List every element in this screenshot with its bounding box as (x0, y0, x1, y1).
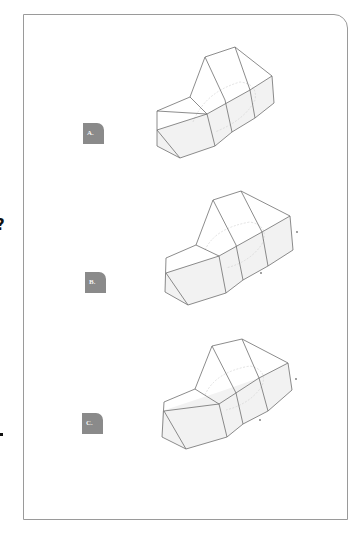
figures-canvas (0, 0, 361, 533)
figure-c-marker-right (295, 378, 297, 380)
figure-b-marker-bottom (260, 272, 262, 274)
option-b-figure[interactable] (165, 191, 298, 305)
option-c-figure[interactable] (162, 339, 297, 449)
option-a-figure[interactable] (157, 47, 274, 158)
figure-c-marker-bottom (259, 419, 261, 421)
figure-b-shading (165, 216, 293, 305)
figure-b-marker-right (296, 231, 298, 233)
